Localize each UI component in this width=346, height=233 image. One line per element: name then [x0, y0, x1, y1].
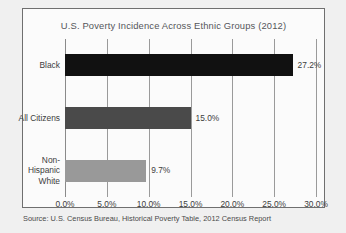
x-tick-label: 10.0% — [137, 199, 161, 209]
category-label: Non-HispanicWhite — [28, 155, 60, 187]
bar-value-label: 9.7% — [151, 166, 170, 174]
x-tick-label: 20.0% — [220, 199, 244, 209]
bar-value-label: 15.0% — [196, 114, 220, 122]
x-axis-tick-labels: 0.0%5.0%10.0%15.0%20.0%25.0%30.0% — [65, 199, 316, 213]
bar — [65, 160, 146, 182]
category-label-line: All Citizens — [19, 113, 60, 124]
x-tick-label: 15.0% — [179, 199, 203, 209]
category-label-line: Hispanic — [28, 165, 60, 176]
source-note: Source: U.S. Census Bureau, Historical P… — [23, 214, 271, 223]
x-tick-label: 30.0% — [304, 199, 328, 209]
category-label-line: Non- — [28, 155, 60, 166]
category-label-line: White — [28, 176, 60, 187]
bar-value-label: 27.2% — [298, 61, 322, 69]
bar — [65, 54, 293, 76]
bar — [65, 107, 191, 129]
category-label: Black — [40, 60, 60, 71]
x-tick-label: 25.0% — [262, 199, 286, 209]
chart-title: U.S. Poverty Incidence Across Ethnic Gro… — [23, 20, 324, 31]
chart-figure-frame: U.S. Poverty Incidence Across Ethnic Gro… — [22, 8, 325, 208]
category-label: All Citizens — [19, 113, 60, 124]
x-tick-label: 0.0% — [55, 199, 74, 209]
x-tick-label: 5.0% — [97, 199, 116, 209]
plot-area: 27.2%Black15.0%All Citizens9.7%Non-Hispa… — [65, 39, 316, 197]
category-label-line: Black — [40, 60, 60, 71]
